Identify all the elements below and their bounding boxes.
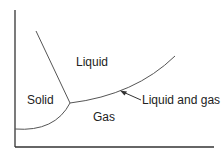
region-label-solid: Solid: [27, 94, 54, 106]
arrow-head-icon: [120, 91, 127, 96]
region-label-gas: Gas: [93, 111, 115, 123]
region-label-liquid: Liquid: [76, 56, 108, 68]
phase-diagram-canvas: [0, 0, 222, 150]
annotation-label: Liquid and gas: [142, 94, 220, 106]
